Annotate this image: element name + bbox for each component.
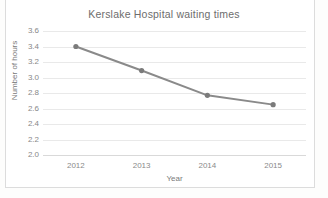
chart-page: Kerslake Hospital waiting times Number o… [0,0,328,198]
x-tick-label: 2013 [122,161,162,171]
y-tick-label: 3.0 [13,74,39,82]
x-tick-label: 2015 [253,161,293,171]
y-tick-label: 2.4 [13,120,39,128]
y-tick-label: 3.2 [13,58,39,66]
series-line [76,47,273,105]
x-axis-title: Year [43,174,306,183]
y-tick-label: 2.6 [13,105,39,113]
x-axis-tick-labels: 2012201320142015 [43,161,306,173]
x-tick-label: 2012 [56,161,96,171]
x-axis-line [43,155,306,156]
y-axis-tick-labels: 3.63.43.23.02.82.62.42.22.0 [11,31,39,155]
y-tick-label: 3.4 [13,43,39,51]
data-point-marker [139,68,144,73]
data-point-marker [271,102,276,107]
y-tick-label: 2.8 [13,89,39,97]
chart-title: Kerslake Hospital waiting times [0,8,328,20]
x-tick-label: 2014 [187,161,227,171]
series-markers [73,44,275,107]
data-point-marker [205,93,210,98]
data-point-marker [73,44,78,49]
y-tick-label: 2.2 [13,136,39,144]
plot-area [43,31,306,155]
line-series [43,31,306,155]
y-tick-label: 3.6 [13,27,39,35]
y-tick-label: 2.0 [13,151,39,159]
